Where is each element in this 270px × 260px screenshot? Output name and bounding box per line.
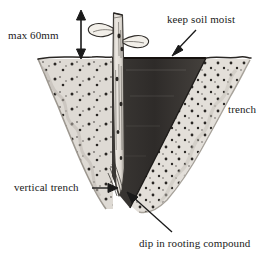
cutting-trench-diagram: max 60mm keep soil moist trench vertical… bbox=[0, 0, 270, 260]
max-height-arrow bbox=[77, 10, 86, 59]
label-keep-soil-moist: keep soil moist bbox=[167, 14, 235, 25]
keep-moist-arrow bbox=[172, 30, 196, 56]
label-trench: trench bbox=[228, 104, 256, 115]
label-dip-compound: dip in rooting compound bbox=[139, 238, 250, 249]
label-vertical-trench: vertical trench bbox=[14, 182, 79, 193]
label-max-height: max 60mm bbox=[8, 30, 59, 41]
